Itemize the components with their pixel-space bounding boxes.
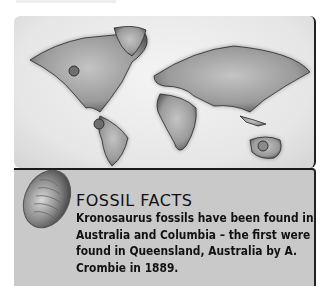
world-map-panel [14, 16, 316, 168]
world-map-image [14, 16, 314, 168]
fossil-site-marker-icon [69, 66, 79, 76]
fossil-site-marker-icon [258, 141, 268, 151]
cropped-header-text [16, 0, 116, 3]
fossil-facts-heading: FOSSIL FACTS [76, 191, 192, 210]
africa [157, 94, 196, 150]
fossil-facts-text: Kronosaurus fossils have been found in A… [76, 210, 317, 276]
trilobite-fossil-icon [20, 166, 74, 232]
indonesia [240, 116, 266, 126]
fossil-site-marker-icon [94, 119, 104, 129]
